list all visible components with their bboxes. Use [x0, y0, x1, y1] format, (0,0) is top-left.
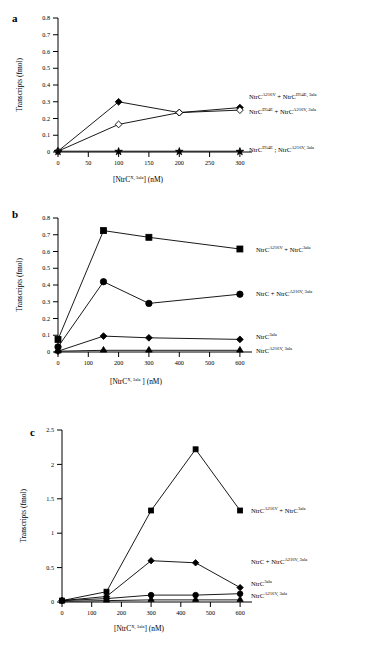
panel-c-ytick-5: 2.5: [46, 426, 54, 433]
panel-a-ytick-7: 0.7: [42, 31, 50, 38]
panel-c-series-1-line: [62, 449, 240, 600]
panel-b-xtick-1: 100: [84, 359, 93, 366]
panel-a-ytick-5: 0.5: [42, 64, 50, 71]
panel-c-xtick-0: 0: [60, 609, 63, 616]
panel-a-y-axis-title: Transcripts (fmol): [15, 58, 24, 112]
panel-a-xtick-4: 200: [175, 159, 184, 166]
panel-c-y-axis-title: Transcripts (fmol): [19, 489, 28, 543]
panel-c-x-axis-title: [NtrCX, 3ala] (nM): [114, 624, 165, 633]
panel-a-ytick-4: 0.4: [42, 81, 50, 88]
panel-b-y-axis-title: Transcripts (fmol): [15, 258, 24, 312]
panel-b-xtick-6: 600: [235, 359, 244, 366]
panel-c-y-ticks: 0 0.5 1 1.5 2 2.5: [46, 426, 62, 605]
panel-b-annotation-2: NtrC + NtrCA216V, 3ala: [256, 289, 312, 297]
panel-b-ytick-3: 0.3: [42, 298, 50, 305]
panel-c-ytick-3: 1.5: [46, 495, 54, 502]
panel-b-x-axis-title: [NtrCX, 3ala ] (nM): [110, 377, 162, 386]
panel-b-ytick-7: 0.7: [42, 231, 50, 238]
panel-c-xtick-6: 600: [235, 609, 244, 616]
panel-b-letter: b: [12, 208, 18, 220]
panel-b-ytick-0: 0: [47, 348, 50, 355]
panel-c-xtick-5: 500: [206, 609, 215, 616]
panel-b-xtick-4: 400: [175, 359, 184, 366]
panel-b-xtick-0: 0: [56, 359, 59, 366]
panel-c-annotation-1: NtrCA216V + NtrC3ala: [251, 506, 306, 514]
panel-b-series-1-markers: [55, 228, 243, 343]
panel-a-xtick-6: 300: [235, 159, 244, 166]
panel-a-annotation-1: NtrCA216V + NtrCD54E, 3ala: [249, 92, 317, 100]
panel-b-ytick-2: 0.2: [42, 315, 50, 322]
panel-a-annotation-2: NtrCD54E + NtrCA216V, 3ala: [249, 107, 316, 115]
panel-a-ytick-6: 0.6: [42, 48, 50, 55]
panel-b-series-1-line: [58, 231, 240, 340]
panel-c-xtick-2: 200: [117, 609, 126, 616]
panel-c-series-1-markers: [60, 447, 243, 603]
panel-a-ytick-1: 0.1: [42, 131, 50, 138]
panel-c-xtick-3: 300: [146, 609, 155, 616]
panel-c-xtick-1: 100: [87, 609, 96, 616]
panel-c-xtick-4: 400: [176, 609, 185, 616]
panel-a: a 0 0.1 0.2 0.3 0.4 0.5 0.: [0, 0, 373, 218]
panel-b-xtick-3: 300: [144, 359, 153, 366]
panel-a-ytick-8: 0.8: [42, 14, 50, 21]
panel-a-xtick-2: 100: [114, 159, 123, 166]
panel-a-annotation-3: NtrCD54E ; NtrCA216V, 3ala: [249, 145, 314, 153]
panel-b: b 0 0.1 0.2 0.3 0.4 0.5 0.6: [0, 196, 373, 416]
panel-b-ytick-5: 0.5: [42, 264, 50, 271]
panel-b-xtick-2: 200: [114, 359, 123, 366]
panel-c-svg: c 0 0.5 1 1.5 2 2.5: [0, 414, 373, 654]
panel-c: c 0 0.5 1 1.5 2 2.5: [0, 414, 373, 654]
panel-a-ytick-3: 0.3: [42, 98, 50, 105]
panel-c-letter: c: [30, 426, 35, 438]
figure-container: a 0 0.1 0.2 0.3 0.4 0.5 0.: [0, 0, 373, 654]
panel-b-annotation-4: NtrCA216V, 3ala: [256, 346, 292, 354]
panel-b-xtick-5: 500: [205, 359, 214, 366]
panel-b-ytick-8: 0.8: [42, 214, 50, 221]
panel-b-x-ticks: 0 100 200 300 400 500 600: [56, 352, 244, 366]
panel-c-annotation-4: NtrCA216V, 3ala: [251, 591, 287, 599]
panel-b-annotation-1: NtrCA216V + NtrC3ala: [256, 245, 311, 253]
panel-a-ytick-2: 0.2: [42, 115, 50, 122]
panel-c-annotation-2: NtrC + NtrCA216V, 3ala: [251, 557, 307, 565]
panel-a-x-axis-title: [NtrCX, 3ala] (nM): [113, 175, 164, 184]
panel-c-ytick-4: 2: [51, 461, 54, 468]
panel-b-y-ticks: 0 0.1 0.2 0.3 0.4 0.5 0.6 0.7 0.8: [42, 214, 58, 355]
panel-c-ytick-2: 1: [51, 529, 54, 536]
panel-b-ytick-4: 0.4: [42, 281, 50, 288]
panel-c-annotation-3: NtrC3ala: [251, 579, 272, 587]
panel-c-ytick-1: 0.5: [46, 564, 54, 571]
panel-a-xtick-1: 50: [85, 159, 91, 166]
panel-a-ytick-0: 0: [47, 148, 50, 155]
panel-a-svg: a 0 0.1 0.2 0.3 0.4 0.5 0.: [0, 0, 373, 218]
panel-c-ytick-0: 0: [51, 598, 54, 605]
panel-a-xtick-0: 0: [56, 159, 59, 166]
panel-a-series-1-line: [58, 102, 240, 151]
panel-a-xtick-5: 250: [205, 159, 214, 166]
panel-b-svg: b 0 0.1 0.2 0.3 0.4 0.5 0.6: [0, 196, 373, 416]
panel-b-ytick-1: 0.1: [42, 331, 50, 338]
panel-a-series-2-line: [58, 110, 240, 151]
panel-b-ytick-6: 0.6: [42, 248, 50, 255]
panel-a-letter: a: [12, 12, 18, 24]
panel-a-y-ticks: 0 0.1 0.2 0.3 0.4 0.5 0.6 0.7 0.8: [42, 14, 58, 155]
panel-c-x-ticks: 0 100 200 300 400 500 600: [60, 602, 244, 616]
panel-a-xtick-3: 150: [144, 159, 153, 166]
panel-a-x-ticks: 0 50 100 150 200 250 300: [56, 152, 244, 166]
panel-b-annotation-3: NtrC3ala: [256, 332, 277, 340]
